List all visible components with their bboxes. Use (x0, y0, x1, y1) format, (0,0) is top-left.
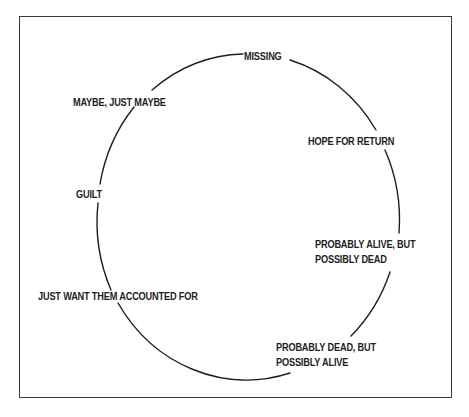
stage-label-line: MAYBE, JUST MAYBE (73, 95, 166, 110)
stage-probably-alive: PROBABLY ALIVE, BUT POSSIBLY DEAD (315, 237, 415, 267)
stage-label-line: POSSIBLY ALIVE (276, 355, 376, 370)
stage-probably-dead: PROBABLY DEAD, BUT POSSIBLY ALIVE (276, 340, 376, 370)
stage-just-want-accounted: JUST WANT THEM ACCOUNTED FOR (38, 289, 198, 304)
arc-missing-to-hope (290, 60, 376, 130)
arc-maybe-to-guilt (100, 107, 134, 184)
stage-guilt: GUILT (76, 187, 102, 202)
stage-label-line: MISSING (244, 49, 282, 64)
arc-hope-to-probably-alive (385, 150, 400, 233)
stage-hope-for-return: HOPE FOR RETURN (308, 134, 394, 149)
stage-label-line: PROBABLY DEAD, BUT (276, 340, 376, 355)
arc-probably-alive-to-probably-dead (351, 272, 390, 336)
stage-label-line: POSSIBLY DEAD (315, 252, 415, 267)
arc-guilt-to-accounted (97, 203, 111, 290)
cycle-arcs (0, 0, 469, 417)
stage-label-line: JUST WANT THEM ACCOUNTED FOR (38, 289, 198, 304)
stage-label-line: PROBABLY ALIVE, BUT (315, 237, 415, 252)
stage-label-line: HOPE FOR RETURN (308, 134, 394, 149)
stage-missing: MISSING (244, 49, 282, 64)
stage-maybe-just-maybe: MAYBE, JUST MAYBE (73, 95, 166, 110)
stage-label-line: GUILT (76, 187, 102, 202)
arc-probably-dead-to-accounted (118, 303, 290, 380)
arc-maybe-to-missing (152, 54, 243, 90)
